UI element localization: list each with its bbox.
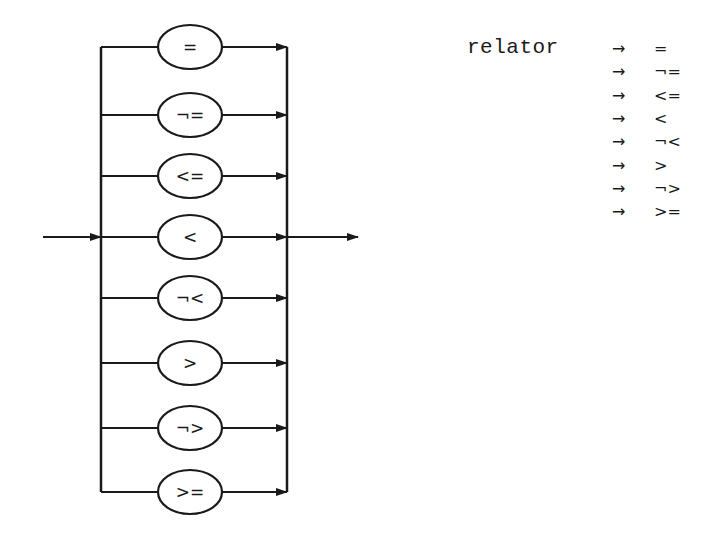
right-arrow-icon: → [612,178,625,200]
production-row: →< [0,108,722,130]
production-rhs: = [654,38,667,60]
right-arrow-icon: → [612,155,625,177]
right-arrow-icon: → [612,85,625,107]
right-arrow-icon: → [612,131,625,153]
production-rhs: ¬> [654,178,681,200]
production-rhs: ¬< [654,131,681,153]
production-row: →> [0,155,722,177]
right-arrow-icon: → [612,61,625,83]
production-rhs: ¬= [654,61,681,83]
right-arrow-icon: → [612,201,625,223]
production-row: →¬< [0,131,722,153]
production-row: →<= [0,85,722,107]
grammar-rule: relator →=→¬=→<=→<→¬<→>→¬>→>= [0,0,722,546]
production-rhs: > [654,155,667,177]
production-rhs: <= [654,85,681,107]
production-row: →¬= [0,61,722,83]
right-arrow-icon: → [612,38,625,60]
production-rhs: >= [654,201,681,223]
production-row: →¬> [0,178,722,200]
production-rhs: < [654,108,667,130]
production-row: →>= [0,201,722,223]
production-row: →= [0,38,722,60]
right-arrow-icon: → [612,108,625,130]
